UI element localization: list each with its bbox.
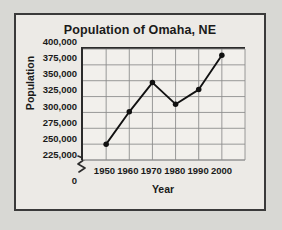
- y-tick-label: 275,000: [43, 116, 77, 127]
- y-axis-zero-label: 0: [72, 175, 77, 186]
- y-tick-label: 300,000: [43, 100, 77, 111]
- chart-figure-frame: Population of Omaha, NE Population 400,0…: [14, 13, 266, 211]
- y-axis-title: Population: [24, 43, 36, 123]
- x-tick-label: 1980: [164, 165, 185, 176]
- x-axis-tick-labels: 195019601970198019902000: [81, 165, 245, 179]
- x-tick-label: 2000: [211, 165, 232, 176]
- plot-area: [81, 47, 245, 160]
- x-tick-label: 1960: [117, 165, 138, 176]
- x-axis-title: Year: [81, 183, 245, 195]
- y-tick-label: 375,000: [43, 52, 77, 63]
- y-tick-label: 225,000: [43, 149, 77, 160]
- x-tick-label: 1950: [94, 165, 115, 176]
- x-tick-label: 1990: [188, 165, 209, 176]
- x-tick-label: 1970: [141, 165, 162, 176]
- y-tick-label: 350,000: [43, 68, 77, 79]
- y-tick-label: 400,000: [43, 36, 77, 47]
- y-tick-label: 250,000: [43, 132, 77, 143]
- population-line-series: [83, 49, 245, 160]
- y-tick-label: 325,000: [43, 84, 77, 95]
